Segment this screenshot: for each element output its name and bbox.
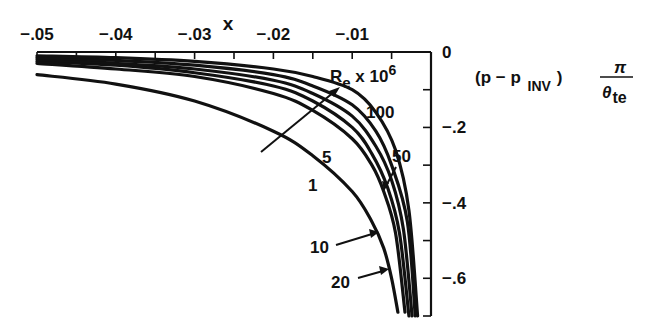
y-title-denominator: θte: [602, 83, 627, 106]
svg-text:(p − p INV ): (p − p INV ): [475, 68, 562, 95]
x-tick-label: −.05: [20, 25, 54, 44]
x-tick-label: −.01: [335, 25, 369, 44]
curve-label-100: 100: [366, 103, 394, 122]
y-title-open: (p − p: [475, 68, 521, 87]
y-axis-ticks: [423, 52, 431, 316]
y-axis: 0−.2−.4−.6: [423, 43, 467, 316]
x-axis-tick-labels: −.05−.04−.03−.02−.01: [20, 25, 369, 44]
curve-re-10: [37, 61, 409, 316]
y-tick-label: −.6: [442, 269, 466, 288]
y-axis-tick-labels: 0−.2−.4−.6: [442, 43, 467, 288]
curve-label-1: 1: [308, 176, 317, 195]
curve-label-20: 20: [331, 273, 350, 292]
pointer-10: [336, 234, 372, 245]
y-title-close: ): [557, 68, 563, 87]
y-axis-title: (p − p INV ) π θte: [475, 58, 633, 106]
curve-label-5: 5: [322, 148, 331, 167]
y-title-numerator: π: [614, 58, 627, 77]
y-tick-label: −.4: [442, 194, 467, 213]
curve-re-20: [37, 60, 412, 316]
x-tick-label: −.04: [99, 25, 133, 44]
x-tick-label: −.03: [178, 25, 212, 44]
pointer-20: [358, 271, 383, 278]
legend-title: Re x 106: [330, 62, 396, 91]
x-tick-label: −.02: [257, 25, 291, 44]
x-axis: −.05−.04−.03−.02−.01 x: [20, 13, 431, 59]
curve-label-10: 10: [310, 238, 329, 257]
curve-label-50: 50: [392, 147, 411, 166]
y-tick-label: 0: [442, 43, 451, 62]
y-title-sub: INV: [528, 78, 552, 94]
y-tick-label: −.2: [442, 118, 466, 137]
chart: −.05−.04−.03−.02−.01 x 0−.2−.4−.6 (p − p…: [0, 0, 653, 334]
x-axis-title: x: [223, 13, 234, 34]
